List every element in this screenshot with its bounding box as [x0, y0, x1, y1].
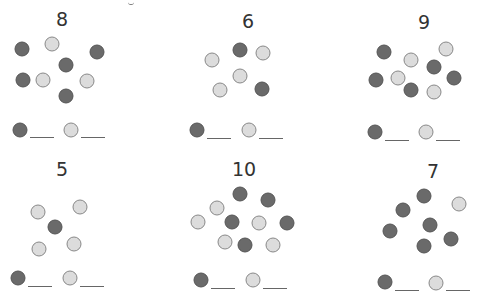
dark-counter-icon	[396, 203, 411, 218]
panel-number: 6	[242, 12, 254, 31]
dark-counter-icon	[444, 232, 459, 247]
light-counter-icon	[73, 200, 88, 215]
light-counter-icon	[452, 197, 467, 212]
dark-counter-icon	[404, 83, 419, 98]
light-counter-icon	[67, 237, 82, 252]
dark-counter-icon	[417, 239, 432, 254]
dark-count-answer-blank[interactable]	[30, 137, 54, 138]
dark-counter-icon	[238, 238, 253, 253]
dark-counter-icon	[233, 187, 248, 202]
light-counter-icon	[256, 46, 271, 61]
light-counter-icon	[80, 74, 95, 89]
panel-number: 5	[56, 160, 68, 179]
panel-number: 10	[232, 160, 256, 179]
light-count-answer-blank[interactable]	[436, 140, 460, 141]
dark-counter-icon	[280, 216, 295, 231]
dark-counter-icon	[447, 71, 462, 86]
light-count-answer-blank[interactable]	[263, 288, 287, 289]
dark-legend-counter-icon	[190, 123, 205, 138]
dark-counter-icon	[383, 224, 398, 239]
dark-counter-icon	[90, 45, 105, 60]
light-legend-counter-icon	[63, 271, 78, 286]
panel-number: 7	[427, 162, 439, 181]
dark-counter-icon	[48, 220, 63, 235]
panel-number: 9	[418, 13, 430, 32]
dark-count-answer-blank[interactable]	[207, 138, 231, 139]
light-count-answer-blank[interactable]	[259, 138, 283, 139]
dark-counter-icon	[427, 60, 442, 75]
light-legend-counter-icon	[429, 276, 444, 291]
dark-legend-counter-icon	[368, 125, 383, 140]
light-legend-counter-icon	[246, 273, 261, 288]
light-counter-icon	[391, 71, 406, 86]
dark-counter-icon	[16, 73, 31, 88]
light-counter-icon	[233, 69, 248, 84]
light-counter-icon	[266, 238, 281, 253]
light-counter-icon	[404, 53, 419, 68]
light-counter-icon	[45, 37, 60, 52]
light-counter-icon	[191, 215, 206, 230]
dark-legend-counter-icon	[11, 271, 26, 286]
dark-count-answer-blank[interactable]	[211, 288, 235, 289]
light-counter-icon	[32, 242, 47, 257]
dark-counter-icon	[369, 73, 384, 88]
dark-count-answer-blank[interactable]	[385, 140, 409, 141]
light-legend-counter-icon	[419, 125, 434, 140]
dark-legend-counter-icon	[194, 273, 209, 288]
dark-counter-icon	[15, 42, 30, 57]
light-count-answer-blank[interactable]	[80, 286, 104, 287]
dark-counter-icon	[233, 43, 248, 58]
dark-legend-counter-icon	[378, 275, 393, 290]
dark-legend-counter-icon	[13, 123, 28, 138]
dark-counter-icon	[59, 58, 74, 73]
dark-counter-icon	[423, 218, 438, 233]
dark-counter-icon	[225, 215, 240, 230]
dark-count-answer-blank[interactable]	[28, 286, 52, 287]
light-counter-icon	[252, 216, 267, 231]
dark-count-answer-blank[interactable]	[395, 290, 419, 291]
light-count-answer-blank[interactable]	[446, 290, 470, 291]
light-counter-icon	[31, 205, 46, 220]
light-counter-icon	[36, 73, 51, 88]
panel-number: 8	[56, 10, 68, 29]
light-counter-icon	[218, 235, 233, 250]
dark-counter-icon	[59, 89, 74, 104]
dark-counter-icon	[377, 45, 392, 60]
light-counter-icon	[213, 83, 228, 98]
light-counter-icon	[210, 201, 225, 216]
light-legend-counter-icon	[242, 123, 257, 138]
light-counter-icon	[427, 85, 442, 100]
dark-counter-icon	[261, 193, 276, 208]
light-counter-icon	[439, 42, 454, 57]
dark-counter-icon	[417, 189, 432, 204]
light-legend-counter-icon	[64, 123, 79, 138]
dark-counter-icon	[255, 82, 270, 97]
light-counter-icon	[205, 53, 220, 68]
cropped-heading-fragment	[128, 0, 134, 5]
light-count-answer-blank[interactable]	[81, 137, 105, 138]
